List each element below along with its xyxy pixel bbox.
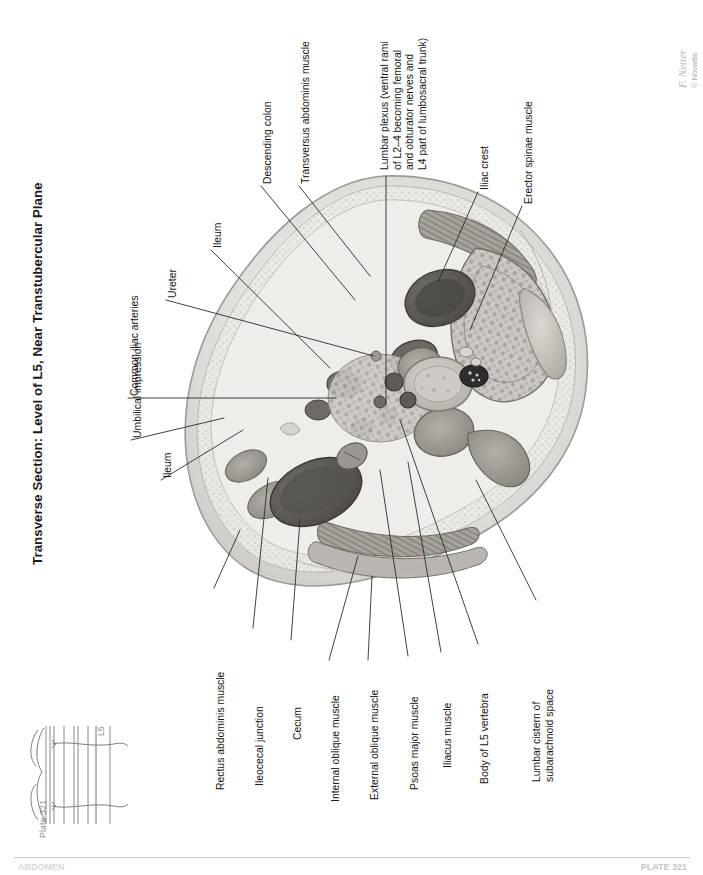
transverse-section-illustration xyxy=(176,170,596,640)
label-rectus-abdominis-muscle: Rectus abdominis muscle xyxy=(215,672,228,790)
spine-key-vertical-lines xyxy=(46,726,110,824)
label-ileum-superior: Ileum xyxy=(212,223,225,248)
spine-key-horizontal-contours xyxy=(52,740,128,810)
label-internal-oblique-muscle: Internal oblique muscle xyxy=(330,695,343,802)
label-descending-colon: Descending colon xyxy=(262,101,275,184)
copyright-notice: © Novartis xyxy=(690,52,699,88)
label-lumbar-plexus: Lumbar plexus (ventral rami of L2–4 beco… xyxy=(379,38,430,170)
label-ileocecal-junction: Ileocecal junction xyxy=(254,706,267,786)
label-iliac-crest: Iliac crest xyxy=(479,146,492,190)
artist-signature: F. Netter xyxy=(676,50,688,88)
label-body-of-l5-vertebra: Body of L5 vertebra xyxy=(479,693,492,784)
ureter xyxy=(371,351,381,361)
plate-number-caption: Plate 321 xyxy=(38,800,48,838)
label-umbilical-impression: Umbilical impression xyxy=(132,343,145,438)
label-cecum: Cecum xyxy=(292,707,305,740)
label-external-oblique-muscle: External oblique muscle xyxy=(369,690,382,800)
spine-key-level-label: L5 xyxy=(96,726,106,736)
footer-divider xyxy=(14,857,690,858)
label-ileum-inferior: Ileum xyxy=(162,453,175,478)
label-lumbar-cistern-of-subarachnoid-space: Lumbar cistern of subarachnoid space xyxy=(531,689,556,782)
label-ureter: Ureter xyxy=(167,269,180,298)
footer-plate-label: PLATE 321 xyxy=(641,862,687,872)
signature-block: F. Netter © Novartis xyxy=(658,22,698,92)
anatomy-plate-page: Transverse Section: Level of L5, Near Tr… xyxy=(0,0,703,875)
label-psoas-major-muscle: Psoas major muscle xyxy=(409,696,422,790)
label-erector-spinae-muscle: Erector spinae muscle xyxy=(523,101,536,204)
label-transversus-abdominis-muscle: Transversus abdominis muscle xyxy=(300,41,313,184)
lumbar-cistern-of-subarachnoid-space xyxy=(460,365,488,387)
footer-section-label: ABDOMEN xyxy=(18,862,65,872)
page-title: Transverse Section: Level of L5, Near Tr… xyxy=(30,182,46,565)
label-iliacus-muscle: Iliacus muscle xyxy=(442,703,455,768)
